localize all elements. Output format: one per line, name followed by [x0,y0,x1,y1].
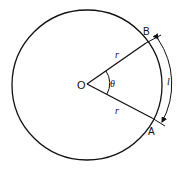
label-center-o: O [77,79,86,91]
label-angle-theta: θ [110,78,115,89]
label-point-b: B [143,26,150,37]
label-point-a: A [148,126,155,137]
circle [12,10,162,160]
circle-arc-diagram: O B A r r θ l [0,0,180,169]
label-arc-length: l [167,76,170,87]
label-radius-lower: r [115,105,119,116]
label-radius-upper: r [115,49,119,60]
radius-oa [87,84,152,118]
